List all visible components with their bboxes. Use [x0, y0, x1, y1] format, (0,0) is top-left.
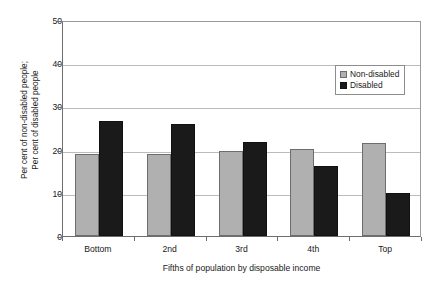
legend: Non-disabled Disabled: [335, 65, 405, 95]
legend-item-disabled: Disabled: [340, 80, 399, 91]
y-tick-mark: [57, 107, 61, 108]
x-tick-mark: [349, 237, 350, 241]
bar-group: [362, 22, 410, 236]
bar: [290, 149, 314, 236]
bar: [99, 121, 123, 236]
bar: [362, 143, 386, 236]
x-tick-label: 3rd: [235, 244, 247, 254]
bar: [314, 166, 338, 236]
bar-group: [290, 22, 338, 236]
bar: [386, 193, 410, 236]
y-tick-mark: [57, 151, 61, 152]
x-tick-mark: [134, 237, 135, 241]
x-tick-label: Top: [378, 244, 392, 254]
legend-label-disabled: Disabled: [350, 80, 383, 91]
bar-group: [75, 22, 123, 236]
x-axis-title: Fifths of population by disposable incom…: [62, 263, 421, 273]
y-tick-mark: [57, 64, 61, 65]
bar-group: [147, 22, 195, 236]
x-tick-mark: [62, 237, 63, 241]
y-tick-mark: [57, 237, 61, 238]
bars-layer: [63, 22, 420, 236]
legend-swatch-icon-non-disabled: [340, 71, 347, 78]
bar: [243, 142, 267, 236]
bar-chart: Per cent of non-disabled people; Per cen…: [0, 0, 442, 285]
bar: [75, 154, 99, 236]
x-tick-mark: [421, 237, 422, 241]
bar: [147, 154, 171, 237]
y-axis-ticks: 01020304050: [28, 0, 62, 285]
plot-area: Non-disabled Disabled: [62, 21, 421, 237]
x-tick-mark: [206, 237, 207, 241]
legend-swatch-icon-disabled: [340, 82, 347, 89]
y-tick-mark: [57, 194, 61, 195]
x-tick-mark: [277, 237, 278, 241]
x-tick-label: 2nd: [163, 244, 177, 254]
legend-label-non-disabled: Non-disabled: [350, 69, 399, 80]
bar-group: [219, 22, 267, 236]
y-tick-mark: [57, 21, 61, 22]
bar: [219, 151, 243, 236]
x-tick-label: Bottom: [84, 244, 111, 254]
bar: [171, 124, 195, 236]
legend-item-non-disabled: Non-disabled: [340, 69, 399, 80]
x-tick-label: 4th: [307, 244, 319, 254]
